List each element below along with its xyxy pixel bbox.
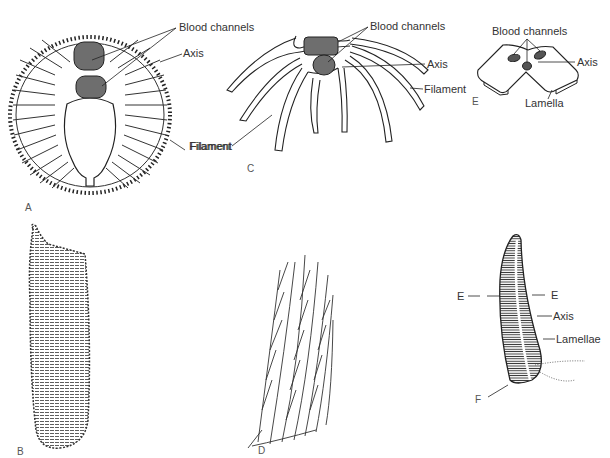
panel-letter-b: B <box>17 446 24 457</box>
label-f-axis: Axis <box>553 310 574 322</box>
panel-letter-d: D <box>258 445 265 456</box>
label-e-blood-channels: Blood channels <box>492 25 568 37</box>
label-f-section-right: E <box>551 289 558 301</box>
panel-letter-a: A <box>25 202 32 213</box>
label-e-lamella: Lamella <box>525 97 564 109</box>
label-c-filament-right: Filament <box>424 83 466 95</box>
label-c-axis: Axis <box>427 58 448 70</box>
panel-b-stippled-gill: B <box>17 225 89 457</box>
label-f-section-left: E <box>457 290 464 302</box>
label-a-blood-channels: Blood channels <box>179 21 255 33</box>
panel-c-filament-cross-section: Blood channels Axis Filament Filament C <box>190 20 466 174</box>
panel-letter-f: F <box>475 394 481 405</box>
label-c-filament-left: Filament <box>190 140 232 152</box>
label-e-axis: Axis <box>577 56 598 68</box>
panel-f-gill-filament: E E Axis Lamellae F <box>457 235 601 405</box>
panel-letter-c: C <box>247 163 254 174</box>
panel-a-gill-cross-section: Blood channels Axis Filament A <box>10 21 255 213</box>
panel-letter-e: E <box>472 96 479 107</box>
label-a-axis: Axis <box>183 47 204 59</box>
panel-d-feathery-gill: D <box>248 255 333 456</box>
label-f-lamellae: Lamellae <box>556 333 601 345</box>
panel-e-lamella-section: Blood channels Axis Lamella E <box>472 25 598 109</box>
label-c-blood-channels: Blood channels <box>370 20 446 32</box>
